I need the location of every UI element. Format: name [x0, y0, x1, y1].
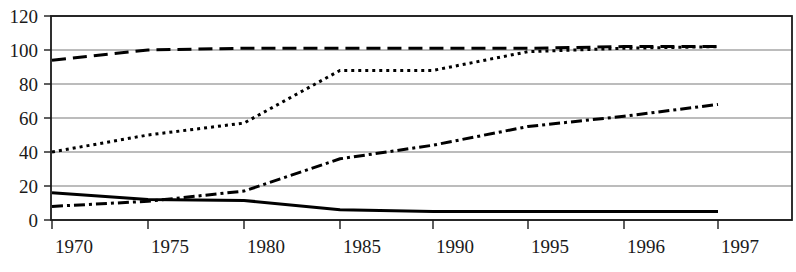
x-axis-label-1980: 1980	[247, 236, 285, 257]
x-axis-label-1990: 1990	[436, 236, 474, 257]
x-axis-label-1995: 1995	[531, 236, 569, 257]
x-axis-label-1985: 1985	[343, 236, 381, 257]
y-axis-label-40: 40	[19, 142, 38, 163]
line-chart: 020406080100120 197019751980198519901995…	[0, 0, 796, 272]
x-axis-label-1975: 1975	[151, 236, 189, 257]
y-axis-label-20: 20	[19, 176, 38, 197]
y-axis-label-100: 100	[10, 40, 39, 61]
chart-canvas: 020406080100120 197019751980198519901995…	[0, 0, 796, 272]
x-axis-label-1970: 1970	[55, 236, 93, 257]
y-axis-label-120: 120	[10, 6, 39, 27]
x-axis-label-1996: 1996	[627, 236, 665, 257]
y-axis-label-80: 80	[19, 74, 38, 95]
y-axis-label-0: 0	[29, 210, 39, 231]
y-axis-label-60: 60	[19, 108, 38, 129]
chart-background	[0, 0, 796, 272]
x-axis-label-1997: 1997	[721, 236, 759, 257]
